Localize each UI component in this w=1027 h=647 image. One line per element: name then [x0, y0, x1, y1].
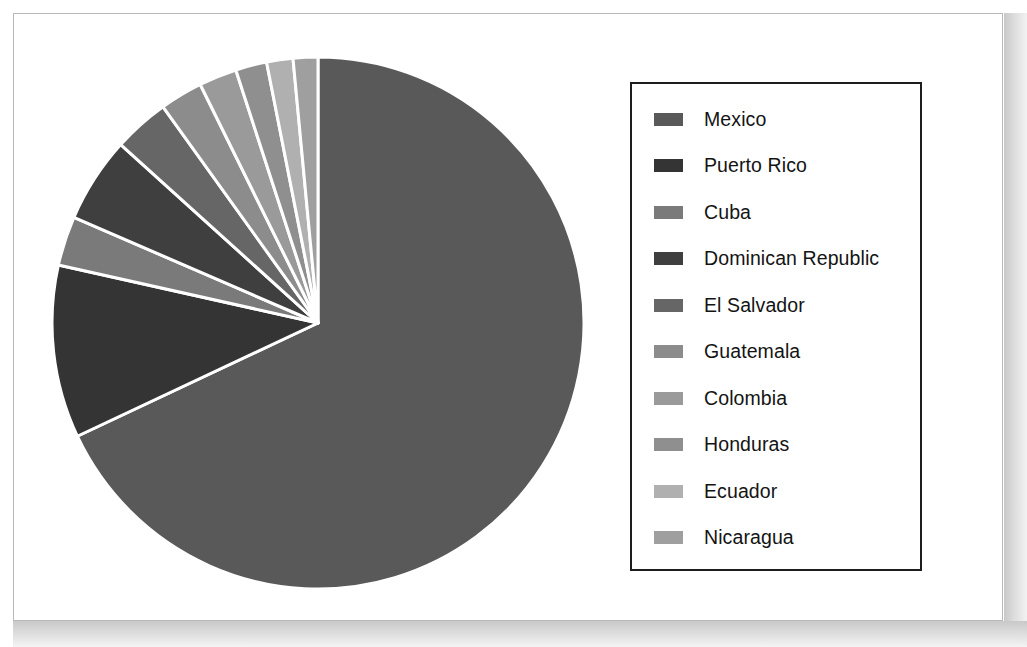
chart-legend: MexicoPuerto RicoCubaDominican RepublicE… [630, 82, 922, 571]
legend-item-label: Dominican Republic [704, 247, 879, 270]
legend-item: Guatemala [654, 329, 912, 376]
legend-item-label: El Salvador [704, 294, 805, 317]
legend-item: Puerto Rico [654, 143, 912, 190]
legend-swatch-icon [654, 485, 683, 498]
legend-item: Mexico [654, 96, 912, 143]
legend-swatch-icon [654, 113, 683, 126]
legend-item: El Salvador [654, 282, 912, 329]
legend-item: Ecuador [654, 468, 912, 515]
legend-item-label: Puerto Rico [704, 154, 807, 177]
legend-item: Nicaragua [654, 515, 912, 562]
legend-item: Dominican Republic [654, 236, 912, 283]
legend-item-label: Guatemala [704, 340, 800, 363]
legend-item-label: Cuba [704, 201, 751, 224]
legend-swatch-icon [654, 252, 683, 265]
legend-swatch-icon [654, 159, 683, 172]
page-edge-shadow-bottom [13, 621, 1027, 647]
pie-chart-svg [50, 55, 586, 591]
legend-item-label: Colombia [704, 387, 787, 410]
legend-item-label: Mexico [704, 108, 766, 131]
legend-swatch-icon [654, 299, 683, 312]
page-edge-shadow-right [1004, 13, 1027, 647]
legend-item: Colombia [654, 375, 912, 422]
legend-item-list: MexicoPuerto RicoCubaDominican RepublicE… [654, 96, 912, 561]
chart-page: MexicoPuerto RicoCubaDominican RepublicE… [0, 0, 1027, 647]
legend-swatch-icon [654, 392, 683, 405]
legend-swatch-icon [654, 206, 683, 219]
legend-swatch-icon [654, 531, 683, 544]
pie-chart [50, 55, 586, 591]
pie-slice-group [52, 57, 584, 589]
legend-swatch-icon [654, 438, 683, 451]
legend-item: Honduras [654, 422, 912, 469]
legend-item-label: Honduras [704, 433, 789, 456]
legend-swatch-icon [654, 345, 683, 358]
legend-item-label: Nicaragua [704, 526, 794, 549]
legend-item: Cuba [654, 189, 912, 236]
legend-item-label: Ecuador [704, 480, 777, 503]
